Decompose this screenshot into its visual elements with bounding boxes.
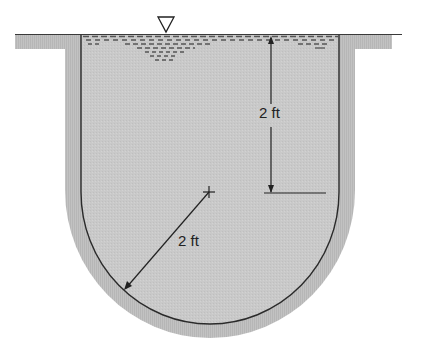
depth-label: 2 ft [258, 104, 281, 121]
channel-svg [0, 0, 422, 360]
channel-diagram: 2 ft 2 ft [0, 0, 422, 360]
liquid-body [81, 35, 339, 324]
radius-label: 2 ft [178, 233, 199, 248]
free-surface-triangle-icon [158, 17, 174, 32]
